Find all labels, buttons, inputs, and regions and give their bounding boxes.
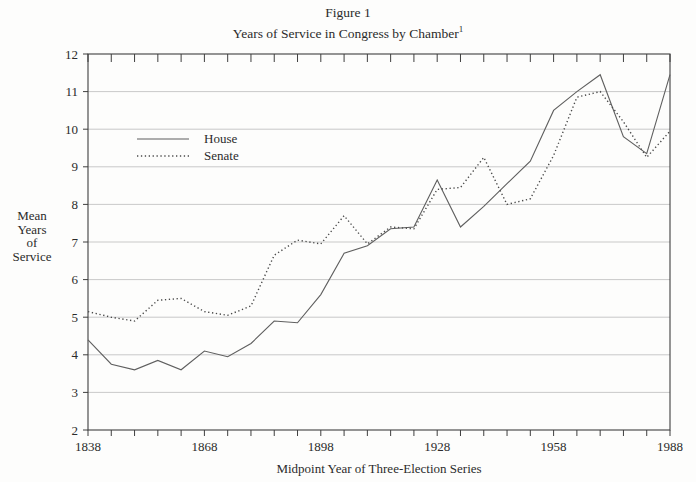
house-solid-line-sample [137,136,189,142]
y-axis-title: Mean Years of Service [3,209,61,263]
x-axis-title: Midpoint Year of Three-Election Series [88,461,670,477]
x-tick-label: 1868 [191,439,217,454]
y-axis-title-line: Mean [3,209,61,223]
figure-container: Figure 1 Years of Service in Congress by… [0,0,696,482]
y-tick-label: 2 [72,423,79,438]
legend-label-house: House [204,131,237,147]
legend: House Senate [137,130,239,164]
legend-label-senate: Senate [204,148,239,164]
x-tick-label: 1988 [657,439,683,454]
x-tick-label: 1898 [308,439,334,454]
x-tick-label: 1838 [75,439,101,454]
y-axis-title-line: Years [3,223,61,237]
line-chart: 23456789101112183818681898192819581988 [0,0,696,482]
legend-item-house: House [137,130,239,147]
y-tick-label: 5 [72,310,79,325]
y-tick-label: 6 [72,272,79,287]
y-tick-label: 10 [65,122,78,137]
y-tick-label: 3 [72,385,79,400]
house-series-line [88,75,670,370]
y-tick-label: 4 [72,347,79,362]
x-tick-label: 1958 [541,439,567,454]
y-tick-label: 8 [72,197,79,212]
x-tick-label: 1928 [424,439,450,454]
y-axis-title-line: of [3,236,61,250]
y-axis-title-line: Service [3,250,61,264]
y-tick-label: 11 [65,84,78,99]
legend-item-senate: Senate [137,147,239,164]
y-tick-label: 9 [72,159,79,174]
y-tick-label: 12 [65,47,78,62]
senate-series-line [88,92,670,321]
y-tick-label: 7 [72,235,79,250]
senate-dotted-line-sample [137,153,189,159]
